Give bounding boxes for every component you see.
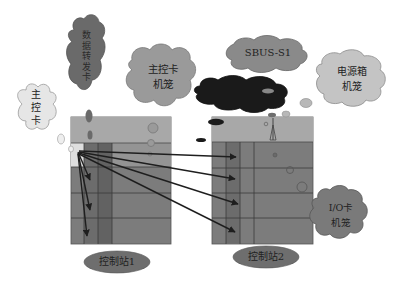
label-power-cage: 电源箱 机笼 [326, 64, 378, 94]
cloud-dark-bus [194, 76, 287, 113]
label-station-2: 控制站2 [239, 250, 293, 264]
label-main-control-card: 主 控 卡 [28, 88, 44, 127]
label-station-1: 控制站1 [90, 255, 144, 269]
station-2-panel [212, 117, 313, 244]
label-data-forward-card: 数 据 转 发 卡 [78, 30, 94, 83]
diagram-canvas [0, 0, 397, 284]
label-main-control-cage: 主控卡 机笼 [138, 62, 188, 92]
label-sbus-s1: SBUS-S1 [240, 46, 296, 60]
label-io-card-cage: I/O卡 机笼 [320, 200, 362, 230]
